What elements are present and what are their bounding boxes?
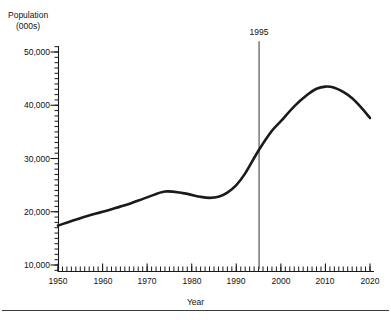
series-line-population xyxy=(58,87,370,226)
x-axis-minor-ticks xyxy=(58,267,370,272)
plot-area xyxy=(0,0,391,320)
population-line-chart: Population (000s) 50,000 40,000 30,000 2… xyxy=(0,0,391,320)
x-axis xyxy=(58,264,374,272)
y-axis xyxy=(51,46,59,272)
bottom-divider xyxy=(2,310,389,311)
